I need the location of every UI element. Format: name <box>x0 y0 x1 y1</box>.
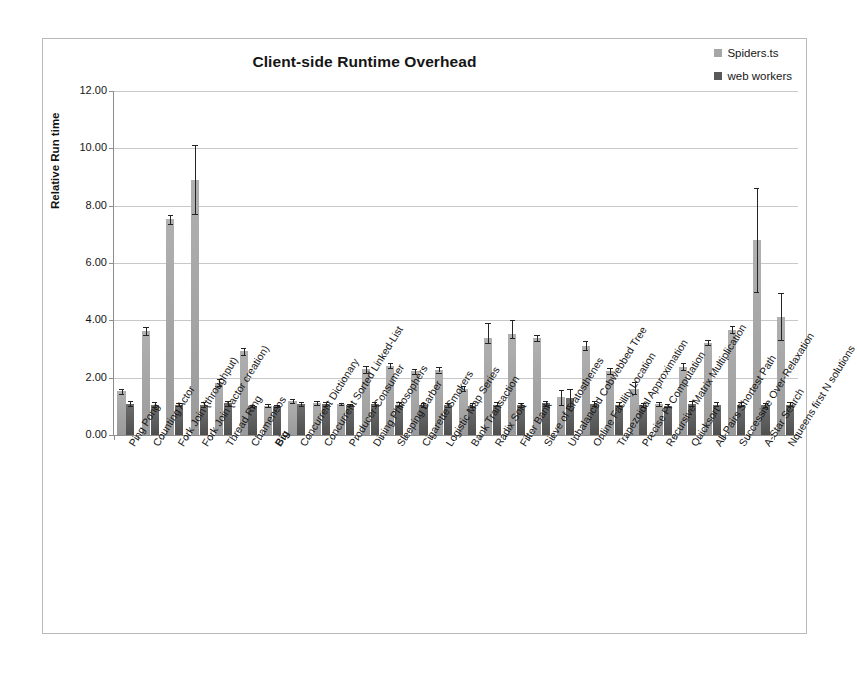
error-bar-cap-top <box>681 363 686 364</box>
error-bar-cap-top <box>128 401 133 402</box>
error-bar-cap-top <box>299 402 304 403</box>
error-bar-cap-top <box>485 323 490 324</box>
x-tick-mark <box>114 435 115 440</box>
y-tick-mark <box>109 263 114 264</box>
error-bar-cap-top <box>143 327 148 328</box>
plot-wrapper: Relative Run time 0.002.004.006.008.0010… <box>43 39 808 635</box>
error-bar-cap-top <box>705 340 710 341</box>
error-bar-cap-top <box>534 335 539 336</box>
error-bar-line <box>170 215 171 224</box>
error-bar-line <box>781 293 782 341</box>
error-bar-cap-bottom <box>534 341 539 342</box>
gridline <box>114 320 798 321</box>
error-bar-cap-top <box>559 390 564 391</box>
error-bar-cap-top <box>314 401 319 402</box>
error-bar-cap-bottom <box>290 403 295 404</box>
error-bar-line <box>146 327 147 336</box>
error-bar-cap-top <box>119 389 124 390</box>
y-tick-label: 0.00 <box>63 428 107 440</box>
error-bar-line <box>244 348 245 355</box>
error-bar-cap-bottom <box>485 343 490 344</box>
y-tick-label: 8.00 <box>63 199 107 211</box>
error-bar-cap-bottom <box>241 355 246 356</box>
error-bar-line <box>561 390 562 405</box>
error-bar-line <box>757 188 758 291</box>
error-bar-line <box>586 341 587 350</box>
gridline <box>114 263 798 264</box>
y-tick-mark <box>109 320 114 321</box>
bar <box>117 391 125 435</box>
y-tick-mark <box>109 148 114 149</box>
gridline <box>114 206 798 207</box>
error-bar-line <box>195 145 196 214</box>
error-bar-line <box>512 320 513 338</box>
error-bar-cap-top <box>436 367 441 368</box>
error-bar-cap-bottom <box>705 345 710 346</box>
error-bar-cap-bottom <box>510 338 515 339</box>
error-bar-cap-bottom <box>436 373 441 374</box>
error-bar-cap-top <box>168 215 173 216</box>
y-tick-mark <box>109 206 114 207</box>
y-tick-label: 6.00 <box>63 256 107 268</box>
y-axis-title: Relative Run time <box>49 191 61 209</box>
error-bar-cap-top <box>567 389 572 390</box>
error-bar-cap-bottom <box>299 406 304 407</box>
chart-container: Client-side Runtime Overhead Spiders.ts … <box>42 38 807 634</box>
error-bar-cap-bottom <box>583 350 588 351</box>
gridline <box>114 91 798 92</box>
error-bar-cap-bottom <box>168 224 173 225</box>
error-bar-cap-top <box>754 188 759 189</box>
error-bar-cap-top <box>241 348 246 349</box>
y-tick-mark <box>109 91 114 92</box>
error-bar-cap-bottom <box>119 394 124 395</box>
error-bar-cap-bottom <box>128 406 133 407</box>
error-bar-cap-bottom <box>754 292 759 293</box>
error-bar-cap-top <box>510 320 515 321</box>
error-bar-cap-top <box>388 363 393 364</box>
error-bar-cap-top <box>192 145 197 146</box>
error-bar-cap-top <box>778 293 783 294</box>
y-tick-label: 10.00 <box>63 141 107 153</box>
error-bar-line <box>488 323 489 342</box>
error-bar-cap-bottom <box>778 340 783 341</box>
y-tick-label: 4.00 <box>63 313 107 325</box>
bar <box>288 401 296 435</box>
error-bar-cap-bottom <box>192 214 197 215</box>
error-bar-cap-top <box>290 399 295 400</box>
error-bar-cap-top <box>339 403 344 404</box>
gridline <box>114 148 798 149</box>
error-bar-cap-top <box>714 402 719 403</box>
y-tick-label: 2.00 <box>63 371 107 383</box>
error-bar-cap-bottom <box>143 335 148 336</box>
y-tick-mark <box>109 378 114 379</box>
error-bar-cap-top <box>656 402 661 403</box>
error-bar-cap-top <box>583 341 588 342</box>
y-tick-label: 12.00 <box>63 84 107 96</box>
